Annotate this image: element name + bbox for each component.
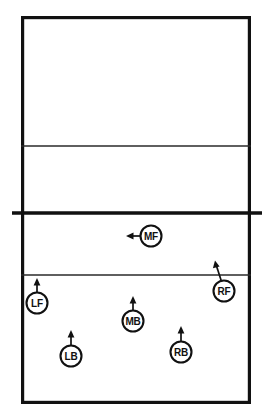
mf-label: MF (144, 231, 158, 242)
lb-label: LB (65, 351, 78, 362)
court-boundary (23, 18, 250, 403)
volleyball-court-diagram: MF RF LF MB LB (0, 0, 271, 417)
rf-label: RF (218, 286, 231, 297)
court-canvas: MF RF LF MB LB (0, 0, 271, 417)
mb-label: MB (125, 316, 140, 327)
lf-label: LF (31, 298, 43, 309)
rb-label: RB (174, 347, 188, 358)
